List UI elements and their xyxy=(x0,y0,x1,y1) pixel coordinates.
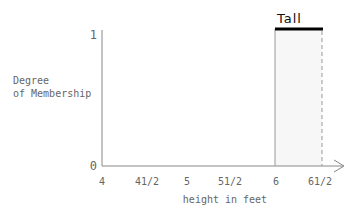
x-axis-label: height in feet xyxy=(183,194,267,205)
y-axis-label-line1: Degree xyxy=(13,75,49,86)
chart-title: Tall xyxy=(276,11,302,26)
x-tick-6.5: 61/2 xyxy=(308,176,332,187)
tall-set-area xyxy=(275,29,322,166)
y-tick-1: 1 xyxy=(90,28,97,42)
fuzzy-set-diagram: Tall 1 0 Degree of Membership 4 41/2 5 5… xyxy=(0,0,361,213)
y-axis-label-line2: of Membership xyxy=(13,88,91,99)
x-tick-5: 5 xyxy=(184,176,190,187)
x-tick-6: 6 xyxy=(273,176,279,187)
y-tick-0: 0 xyxy=(90,159,97,173)
x-tick-5.5: 51/2 xyxy=(218,176,242,187)
x-tick-4: 4 xyxy=(99,176,105,187)
x-tick-4.5: 41/2 xyxy=(135,176,159,187)
